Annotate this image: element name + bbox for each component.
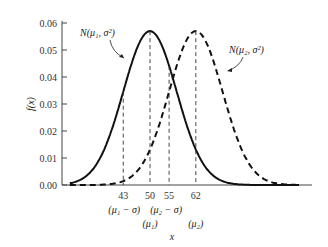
curve-n-mu1 [70, 31, 299, 185]
annotation-n-mu1: N(μ₁, σ²) [79, 27, 115, 39]
annotation-arrow-icon [228, 57, 243, 71]
y-tick-label: 0.03 [40, 99, 58, 110]
x-tick-label: 43 [118, 190, 128, 201]
normal-distributions-chart: 0.000.010.020.030.040.050.06f(x)43505562… [0, 0, 328, 247]
x-tick-label: 55 [164, 190, 174, 201]
annotation-n-mu2: N(μ₂, σ²) [228, 44, 264, 56]
y-tick-label: 0.06 [40, 18, 58, 29]
y-tick-label: 0.04 [40, 72, 58, 83]
curve-n-mu2 [70, 31, 299, 185]
y-tick-label: 0.05 [40, 45, 58, 56]
x-tick-sublabel: (μ₂ − σ) [150, 204, 183, 216]
arrowhead-icon [119, 54, 124, 58]
y-tick-label: 0.00 [40, 180, 58, 191]
x-tick-sublabel: (μ₁) [142, 218, 158, 230]
y-tick-label: 0.01 [40, 153, 58, 164]
x-tick-label: 62 [191, 190, 201, 201]
arrowhead-icon [227, 68, 232, 72]
x-axis-label: x [169, 231, 175, 242]
y-axis-label: f(x) [25, 96, 37, 111]
x-tick-sublabel: (μ₁ − σ) [108, 204, 141, 216]
x-tick-sublabel: (μ₂) [188, 218, 204, 230]
y-tick-label: 0.02 [40, 126, 58, 137]
x-tick-label: 50 [145, 190, 155, 201]
